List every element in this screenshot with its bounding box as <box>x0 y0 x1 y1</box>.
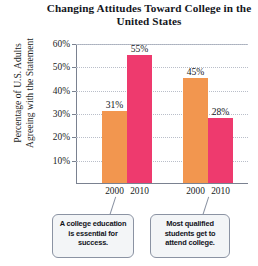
chart-title: Changing Attitudes Toward College in the… <box>46 2 252 28</box>
bar-value-label: 55% <box>131 43 149 54</box>
gridline <box>76 91 248 92</box>
bar-2010-g1: 55% <box>127 55 152 183</box>
y-axis-label-line-1: Percentage of U.S. Adults <box>12 43 23 142</box>
y-axis-label-line-2: Agreeing with the Statement <box>24 38 36 148</box>
y-axis-tick-label: 60% <box>53 39 70 49</box>
y-axis-tick <box>72 91 76 92</box>
callout-left-line-3: success. <box>56 238 130 248</box>
y-axis-tick <box>72 67 76 68</box>
bar-2010-g2: 28% <box>208 118 233 183</box>
bar-value-label: 45% <box>187 66 205 77</box>
y-axis-label: Percentage of U.S. Adults Agreeing with … <box>9 23 39 163</box>
bar-2000-g1: 31% <box>102 111 127 183</box>
bar-chart-figure: Changing Attitudes Toward College in the… <box>0 0 258 266</box>
y-axis-tick-label: 20% <box>53 132 70 142</box>
x-axis-line <box>76 183 248 184</box>
bar-2000-g2: 45% <box>183 78 208 183</box>
callout-left-line-1: A college education <box>56 219 130 229</box>
x-axis-tick-label: 2010 <box>211 186 230 196</box>
gridline <box>76 44 248 45</box>
y-axis-tick <box>72 44 76 45</box>
callout-left: A college education is essential for suc… <box>52 214 134 258</box>
y-axis-tick <box>72 137 76 138</box>
y-axis-tick-label: 10% <box>53 156 70 166</box>
callout-left-line-2: is essential for <box>56 229 130 239</box>
callout-right-line-3: attend college. <box>154 238 226 248</box>
gridline <box>76 67 248 68</box>
x-axis-tick-label: 2000 <box>186 186 205 196</box>
y-axis-tick-label: 30% <box>53 109 70 119</box>
plot-area: 10%20%30%40%50%60% 31%55%45%28% 20002010… <box>76 44 248 184</box>
callout-right: Most qualified students get to attend co… <box>150 214 230 258</box>
x-axis-tick-label: 2000 <box>105 186 124 196</box>
y-axis-tick <box>72 114 76 115</box>
y-axis-tick-label: 40% <box>53 86 70 96</box>
callout-right-line-2: students get to <box>154 229 226 239</box>
y-axis-tick <box>72 161 76 162</box>
chart-title-line-1: Changing Attitudes Toward <box>47 2 182 14</box>
bar-value-label: 28% <box>212 106 230 117</box>
callout-right-line-1: Most qualified <box>154 219 226 229</box>
bar-value-label: 31% <box>106 99 124 110</box>
x-axis-tick-label: 2010 <box>130 186 149 196</box>
y-axis-tick-label: 50% <box>53 62 70 72</box>
